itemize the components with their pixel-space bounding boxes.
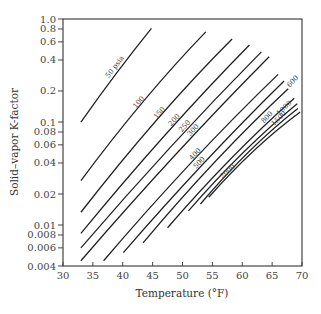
y-tick-label: 1.0 [40,14,56,25]
x-tick-label: 45 [146,270,159,281]
y-tick-label: 0.1 [40,117,56,128]
curve-400 [104,74,278,260]
x-axis-title: Temperature (°F) [136,287,229,299]
y-tick-label: 0.006 [27,242,56,253]
curve-labels: 50 psia100150200250300400500600800100015… [104,54,300,180]
y-tick-label: 0.02 [34,189,56,200]
y-tick-label: 0.08 [34,126,56,137]
curve-label: 2000 [218,163,236,181]
y-tick-label: 0.01 [34,220,56,231]
curve-100 [81,32,206,181]
y-tick-label: 0.004 [27,261,56,272]
x-tick-label: 65 [266,270,279,281]
y-axis-title: Solid–vapor K-factor [8,87,20,196]
x-tick-label: 30 [57,270,70,281]
x-tick-label: 55 [206,270,219,281]
y-tick-label: 0.8 [40,23,56,34]
curve-50-psia [81,28,152,122]
curve-150 [81,39,232,212]
curve-250 [81,52,261,248]
curve-500 [123,81,284,253]
k-factor-chart: 303540455055606570 0.0040.0060.0080.010.… [0,0,321,314]
x-tick-label: 40 [116,270,129,281]
y-axis: 0.0040.0060.0080.010.020.040.060.080.10.… [27,14,63,272]
curve-label: 100 [131,95,146,110]
y-tick-label: 0.06 [34,139,56,150]
y-tick-label: 0.2 [40,85,56,96]
curve-label: 150 [152,105,167,120]
x-tick-label: 35 [87,270,100,281]
y-tick-label: 0.6 [40,36,56,47]
curve-300 [81,57,269,261]
curve-label: 600 [285,74,300,89]
x-tick-label: 50 [176,270,189,281]
y-tick-label: 0.4 [40,54,56,65]
x-tick-label: 70 [296,270,309,281]
y-tick-label: 0.008 [27,229,56,240]
y-tick-label: 0.04 [34,157,56,168]
x-axis: 303540455055606570 [57,262,309,281]
x-tick-label: 60 [236,270,249,281]
